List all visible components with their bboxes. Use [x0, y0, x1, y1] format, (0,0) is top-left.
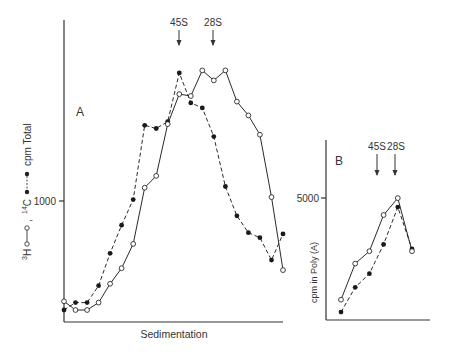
panel-b-label: B — [335, 154, 343, 168]
arrow-down-icon — [375, 170, 380, 176]
data-point-14c — [177, 71, 182, 76]
data-point-14c — [96, 283, 101, 288]
data-point-3h — [73, 308, 78, 313]
data-point-14c — [62, 308, 67, 313]
panel-b-plot — [339, 196, 415, 315]
data-point-14c — [339, 310, 344, 315]
data-point-3h — [258, 132, 263, 137]
panel-a-tick-label-1000: 1000 — [34, 196, 57, 207]
open-circle-legend-icon — [25, 242, 29, 246]
data-point-14c — [142, 123, 147, 128]
data-point-3h — [119, 266, 124, 271]
data-point-14c — [258, 235, 263, 240]
data-point-3h — [235, 99, 240, 104]
marker-45s-label: 45S — [170, 17, 188, 28]
data-point-14c — [211, 134, 216, 139]
data-point-3h — [188, 94, 193, 99]
series-3h-line — [64, 70, 283, 310]
panel-a-y-axis-label: 3H , 14C cpm Total — [21, 123, 33, 260]
panel-b-tick-label-5000: 5000 — [297, 193, 320, 204]
arrow-down-icon — [393, 170, 398, 176]
data-point-3h — [200, 68, 205, 73]
data-point-3h — [381, 213, 386, 218]
figure: 1000 A Sedimentation 45S 28S 3H , 14C cp… — [0, 0, 451, 356]
data-point-14c — [223, 184, 228, 189]
panel-b: 5000 B 45S 28S cpm in Poly (A) — [297, 140, 430, 320]
series-3h-line — [341, 198, 412, 300]
data-point-14c — [200, 106, 205, 111]
data-point-3h — [154, 174, 159, 179]
ylabel-comma: , — [22, 219, 33, 222]
data-point-3h — [62, 299, 67, 304]
data-point-14c — [119, 223, 124, 228]
arrow-down-icon — [177, 40, 182, 46]
data-point-14c — [269, 258, 274, 263]
data-point-14c — [246, 230, 251, 235]
svg-text:14C: 14C — [21, 199, 33, 214]
data-point-14c — [188, 101, 193, 106]
data-point-3h — [131, 242, 136, 247]
data-point-14c — [154, 126, 159, 131]
data-point-3h — [142, 185, 147, 190]
ylabel-suffix: cpm Total — [22, 123, 33, 166]
arrow-down-icon — [211, 40, 216, 46]
data-point-3h — [96, 300, 101, 305]
panel-b-y-axis-label: cpm in Poly (A) — [309, 242, 319, 303]
filled-circle-legend-icon — [25, 190, 29, 194]
open-circle-legend-icon — [25, 226, 29, 230]
data-point-14c — [395, 205, 400, 210]
data-point-3h — [339, 297, 344, 302]
data-point-3h — [395, 196, 400, 201]
data-point-14c — [367, 271, 372, 276]
data-point-3h — [281, 268, 286, 273]
data-point-14c — [108, 251, 113, 256]
data-point-3h — [108, 281, 113, 286]
panel-a: 1000 A Sedimentation 45S 28S 3H , 14C cp… — [21, 17, 285, 340]
data-point-3h — [211, 78, 216, 83]
data-point-3h — [165, 122, 170, 127]
panel-b-marker-45s-label: 45S — [368, 141, 386, 152]
panel-a-x-axis-label: Sedimentation — [140, 328, 207, 340]
marker-28s-label: 28S — [204, 17, 222, 28]
ylabel-h3: H — [22, 249, 33, 256]
data-point-14c — [281, 232, 286, 237]
data-point-14c — [85, 300, 90, 305]
data-point-3h — [410, 249, 415, 254]
data-point-3h — [223, 68, 228, 73]
data-point-14c — [235, 213, 240, 218]
panel-a-plot — [62, 68, 286, 312]
data-point-3h — [85, 308, 90, 313]
data-point-3h — [177, 92, 182, 97]
data-point-3h — [367, 249, 372, 254]
series-14c-line — [341, 207, 412, 312]
data-point-14c — [381, 242, 386, 247]
filled-circle-legend-icon — [25, 172, 29, 176]
ylabel-c14-sup: 14 — [21, 206, 28, 214]
data-point-14c — [73, 300, 78, 305]
ylabel-c14: C — [22, 199, 33, 206]
data-point-3h — [269, 195, 274, 200]
panel-b-marker-28s-label: 28S — [387, 141, 405, 152]
data-point-3h — [353, 261, 358, 266]
svg-text:3H: 3H — [21, 249, 33, 260]
data-point-14c — [353, 285, 358, 290]
panel-a-label: A — [76, 105, 84, 119]
data-point-14c — [131, 197, 136, 202]
data-point-3h — [246, 113, 251, 118]
